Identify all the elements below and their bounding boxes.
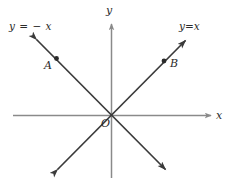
axis-group xyxy=(13,24,211,178)
x-axis-label: x xyxy=(216,110,222,121)
point-b-label: B xyxy=(170,58,178,69)
line-y-equals-x xyxy=(58,41,186,170)
coordinate-plane-figure: y x O A B y = − x y=x xyxy=(0,0,234,190)
origin-label: O xyxy=(101,118,110,129)
line-label-y-equals-minus-x: y = − x xyxy=(9,21,52,32)
point-a-label: A xyxy=(44,60,52,71)
point-a-dot xyxy=(54,56,59,61)
y-axis-label: y xyxy=(106,5,112,16)
point-group xyxy=(54,56,166,63)
point-b-dot xyxy=(162,59,167,64)
line-label-y-equals-x: y=x xyxy=(179,21,200,32)
